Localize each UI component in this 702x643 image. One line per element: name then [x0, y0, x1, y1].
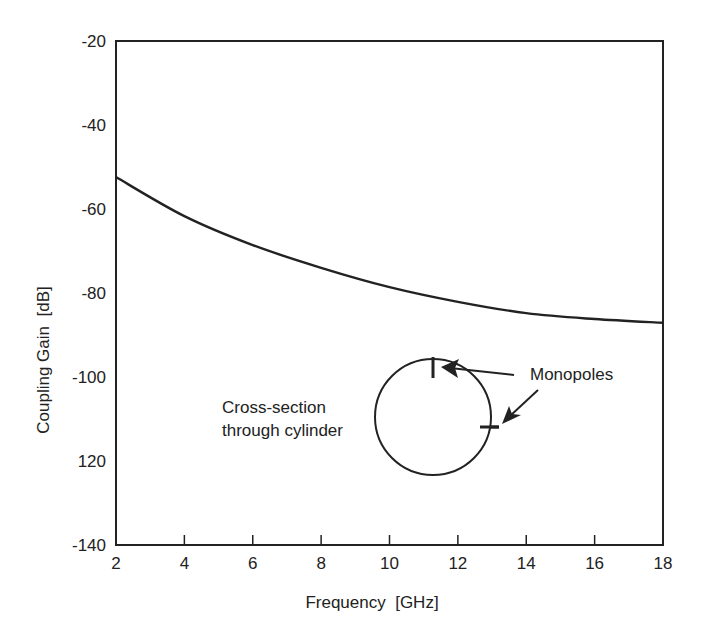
y-tick-label: -80 — [81, 284, 106, 303]
cross-section-label-line1: Cross-section — [222, 398, 326, 417]
x-tick-label: 18 — [654, 554, 673, 573]
arrow-to-top-monopole — [450, 368, 514, 375]
y-axis-ticks: -20-40-60-80-100120-140 — [72, 32, 106, 555]
x-tick-label: 8 — [316, 554, 325, 573]
plot-frame — [116, 41, 663, 545]
x-tick-label: 12 — [448, 554, 467, 573]
inset-cylinder-diagram: Monopoles Cross-section through cylinder — [222, 357, 613, 475]
x-tick-label: 6 — [248, 554, 257, 573]
data-series — [116, 177, 663, 323]
x-tick-label: 2 — [111, 554, 120, 573]
y-tick-label: -40 — [81, 116, 106, 135]
y-axis-title: Coupling Gain [dB] — [34, 286, 53, 433]
y-tick-label: -100 — [72, 368, 106, 387]
x-tick-label: 16 — [585, 554, 604, 573]
monopoles-label: Monopoles — [530, 365, 613, 384]
plot-border — [116, 41, 663, 545]
y-tick-label: 120 — [78, 452, 106, 471]
x-tick-label: 14 — [517, 554, 536, 573]
y-tick-label: -140 — [72, 536, 106, 555]
coupling-gain-chart: 24681012141618 -20-40-60-80-100120-140 F… — [0, 0, 702, 643]
x-tick-label: 4 — [180, 554, 189, 573]
x-axis-title: Frequency [GHz] — [305, 593, 438, 612]
y-tick-label: -60 — [81, 200, 106, 219]
coupling-gain-curve — [116, 177, 663, 323]
arrow-to-side-monopole — [510, 390, 538, 416]
y-tick-label: -20 — [81, 32, 106, 51]
x-axis-ticks: 24681012141618 — [111, 535, 672, 573]
cross-section-label-line2: through cylinder — [222, 421, 343, 440]
x-tick-label: 10 — [380, 554, 399, 573]
